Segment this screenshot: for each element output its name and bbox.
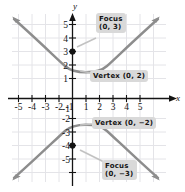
y-tick-label: 4 xyxy=(63,34,68,44)
x-tick-label: 5 xyxy=(138,102,143,112)
x-tick-label: 2 xyxy=(97,102,102,112)
y-tick-label: 1 xyxy=(63,74,68,84)
callout-focus-top: Focus (0, 3) xyxy=(96,13,126,33)
callout-focus-top-title: Focus xyxy=(99,15,123,24)
x-tick-label: 3 xyxy=(111,102,116,112)
y-axis-label: y xyxy=(73,1,77,11)
callout-focus-bottom: Focus (0, −3) xyxy=(102,160,137,180)
leader-focus-bottom xyxy=(80,150,104,162)
y-tick-label: 3 xyxy=(63,47,68,57)
callout-vertex-bottom-title: Vertex (0, −2) xyxy=(95,119,153,128)
callout-vertex-top-title: Vertex (0, 2) xyxy=(93,72,145,81)
callout-focus-top-coords: (0, 3) xyxy=(99,23,123,32)
hyperbola-figure: -5 -4 -3 -2 -1 1 2 3 4 5 5 4 3 2 1 -1 -2… xyxy=(0,0,185,192)
x-tick-label: -5 xyxy=(15,102,23,112)
callout-vertex-bottom: Vertex (0, −2) xyxy=(92,117,156,129)
x-tick-labels: -5 -4 -3 -2 -1 1 2 3 4 5 xyxy=(15,102,143,112)
callout-vertex-top: Vertex (0, 2) xyxy=(90,70,148,82)
y-tick-label: 5 xyxy=(63,20,68,30)
focus-point-bottom xyxy=(69,142,75,148)
y-tick-labels: 5 4 3 2 1 -1 -2 -3 -4 -5 xyxy=(62,20,70,165)
x-tick-label: 1 xyxy=(84,102,89,112)
y-tick-label: -2 xyxy=(62,114,70,124)
y-tick-label: -4 xyxy=(62,141,70,151)
callout-focus-bottom-title: Focus xyxy=(105,162,134,171)
x-tick-label: 4 xyxy=(124,102,129,112)
x-tick-label: -3 xyxy=(42,102,50,112)
focus-point-top xyxy=(69,48,75,54)
y-tick-label: -5 xyxy=(62,155,70,165)
x-tick-label: -4 xyxy=(28,102,36,112)
x-axis-label: x xyxy=(176,93,180,103)
callout-focus-bottom-coords: (0, −3) xyxy=(105,170,134,179)
y-tick-label: -3 xyxy=(62,128,70,138)
y-tick-label: 2 xyxy=(63,61,68,71)
y-tick-label: -1 xyxy=(62,104,70,114)
graph-canvas: -5 -4 -3 -2 -1 1 2 3 4 5 5 4 3 2 1 -1 -2… xyxy=(0,0,185,192)
